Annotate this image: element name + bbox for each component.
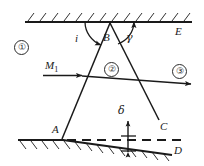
ray-label-M1: M1 bbox=[45, 60, 58, 74]
point-label-B: B bbox=[103, 32, 110, 43]
diagram-canvas bbox=[0, 0, 204, 166]
angle-label-i: i bbox=[75, 33, 78, 44]
angle-arc-i bbox=[85, 22, 101, 45]
region-label-1: ① bbox=[14, 40, 29, 55]
point-label-A: A bbox=[52, 124, 59, 135]
point-label-C: C bbox=[160, 121, 167, 132]
point-label-D: D bbox=[174, 145, 182, 156]
ray-label-M1-base: M bbox=[45, 59, 54, 71]
top-boundary-group bbox=[25, 13, 192, 22]
bottom-boundary-group bbox=[18, 140, 172, 161]
ray-label-M1-subscript: 1 bbox=[54, 65, 58, 74]
region-label-2: ② bbox=[104, 62, 119, 77]
refraction-diagram-figure: ① ② ③ B A C D E i γ δ M1 bbox=[0, 0, 204, 166]
offset-label-delta: δ bbox=[118, 105, 125, 116]
angle-label-gamma: γ bbox=[126, 32, 133, 43]
region-label-3: ③ bbox=[172, 64, 187, 79]
point-label-E: E bbox=[175, 26, 182, 37]
top-boundary-hatching bbox=[28, 13, 190, 21]
